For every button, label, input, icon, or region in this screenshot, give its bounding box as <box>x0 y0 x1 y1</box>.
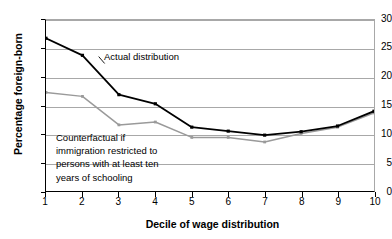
data-point-marker <box>81 54 84 57</box>
annotation-counterfactual: Counterfactual ifimmigration restricted … <box>56 131 158 184</box>
data-point-marker <box>190 136 193 139</box>
data-point-marker <box>154 102 157 105</box>
chart-figure: Percentage foreign-born 051015202530 123… <box>0 0 392 239</box>
x-axis-tick-label: 5 <box>177 196 207 207</box>
annotation-line: immigration restricted to <box>56 144 158 157</box>
data-point-marker <box>263 141 266 144</box>
annotation-actual-distribution: Actual distribution <box>104 50 179 63</box>
x-axis-tick-label: 10 <box>360 196 390 207</box>
annotation-line: years of schooling <box>56 171 158 184</box>
x-axis-tick-label: 4 <box>140 196 170 207</box>
series-line-actual <box>46 38 374 135</box>
data-point-marker <box>372 110 374 113</box>
data-point-marker <box>263 134 266 137</box>
y-axis-title: Percentage foreign-born <box>12 4 24 184</box>
data-point-marker <box>117 93 120 96</box>
x-axis-tick-label: 9 <box>323 196 353 207</box>
x-axis-tick-label: 6 <box>213 196 243 207</box>
x-axis-tick-label: 2 <box>67 196 97 207</box>
annotation-line: persons with at least ten <box>56 157 158 170</box>
x-axis-tick-label: 7 <box>250 196 280 207</box>
data-point-marker <box>300 130 303 133</box>
data-point-marker <box>154 121 157 124</box>
data-point-marker <box>46 37 48 40</box>
x-axis-tick-label: 1 <box>30 196 60 207</box>
data-point-marker <box>46 91 47 94</box>
x-axis-title: Decile of wage distribution <box>40 218 385 230</box>
data-point-marker <box>81 95 84 98</box>
data-point-marker <box>117 123 120 126</box>
x-axis-tick-label: 3 <box>103 196 133 207</box>
x-axis-tick-label: 8 <box>287 196 317 207</box>
data-point-marker <box>336 124 339 127</box>
data-point-marker <box>227 130 230 133</box>
annotation-line: Actual distribution <box>104 50 179 63</box>
data-point-marker <box>227 136 230 139</box>
annotation-line: Counterfactual if <box>56 131 158 144</box>
data-point-marker <box>190 126 193 129</box>
